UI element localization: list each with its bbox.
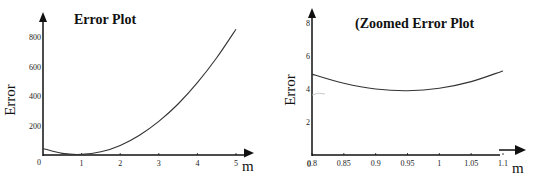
- y-tick-label: 600: [29, 63, 41, 72]
- y-tick-labels: 02468: [306, 19, 311, 169]
- y-axis-label: Error: [282, 74, 298, 106]
- y-axis-label: Error: [2, 84, 18, 116]
- y-tick-label: 8: [306, 19, 310, 28]
- figure: Error Plot 200400600800 12345 0 Error m …: [0, 0, 534, 192]
- x-tick-label: 1.1: [498, 159, 508, 168]
- chart-title: (Zoomed Error Plot: [355, 16, 475, 32]
- y-tick-labels: 200400600800: [29, 33, 41, 131]
- y-tick-label: 6: [306, 52, 310, 61]
- x-axis-arrow-icon: [244, 149, 254, 158]
- x-tick-label: 0.8: [307, 159, 317, 168]
- x-tick-label: 1.05: [464, 159, 478, 168]
- error-plot: Error Plot 200400600800 12345 0 Error m: [2, 12, 254, 174]
- y-axis-arrow-icon: [39, 12, 47, 22]
- y-tick-label: 400: [29, 92, 41, 101]
- error-curve: [312, 71, 503, 91]
- x-tick-label: 3: [157, 159, 161, 168]
- x-tick-label: 1: [80, 159, 84, 168]
- x-tick-label: 0.95: [401, 159, 415, 168]
- x-tick-label: 5: [234, 159, 238, 168]
- y-tick-label: 800: [29, 33, 41, 42]
- x-axis-arrow-icon: [515, 145, 526, 155]
- origin-label: 0: [37, 158, 41, 167]
- x-tick-label: 4: [195, 159, 199, 168]
- x-tick-label: 0.9: [371, 159, 381, 168]
- x-axis-label: m: [512, 160, 524, 176]
- y-axis-arrow-icon: [308, 8, 316, 18]
- x-tick-label: 1: [437, 159, 441, 168]
- stray-mark: [312, 93, 325, 95]
- zoomed-error-plot: (Zoomed Error Plot 02468 0.80.850.90.951…: [282, 8, 526, 176]
- y-tick-label: 2: [306, 118, 310, 127]
- chart-title: Error Plot: [74, 12, 136, 27]
- x-axis-label: m: [242, 158, 254, 174]
- y-tick-label: 200: [29, 122, 41, 131]
- y-tick-label: 4: [306, 85, 310, 94]
- x-tick-label: 2: [118, 159, 122, 168]
- x-tick-label: 0.85: [337, 159, 351, 168]
- error-curve: [43, 29, 236, 154]
